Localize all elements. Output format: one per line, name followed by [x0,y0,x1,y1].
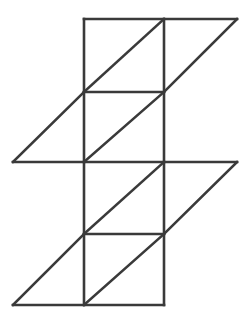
geometric-figure-canvas [0,0,250,320]
figure-background [0,0,250,320]
